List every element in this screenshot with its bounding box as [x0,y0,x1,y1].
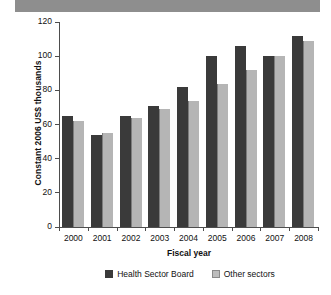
y-tick-label: 100 [38,50,52,60]
bar-health-sector-board [62,116,73,227]
bar-group [260,22,289,227]
x-tick-label: 2002 [117,233,145,243]
y-tick-label: 20 [43,187,52,197]
bar-group [232,22,261,227]
title-banner [15,0,320,12]
bar-health-sector-board [206,56,217,227]
bar-group [88,22,117,227]
y-axis-label: Constant 2006 US$ thousands [33,38,43,208]
x-tick-mark [260,227,261,231]
bar-health-sector-board [235,46,246,227]
x-tick-mark [117,227,118,231]
x-tick-mark [203,227,204,231]
x-tick-mark [318,227,319,231]
bar-group [289,22,318,227]
bar-health-sector-board [148,106,159,227]
x-tick-mark [174,227,175,231]
x-tick-label: 2001 [88,233,116,243]
y-tick-label: 0 [47,221,52,231]
y-tick-label: 120 [38,16,52,26]
bar-other-sectors [274,56,285,227]
bar-group [145,22,174,227]
x-tick-label: 2008 [290,233,318,243]
x-tick-label: 2000 [59,233,87,243]
legend-label: Health Sector Board [117,269,194,279]
x-tick-label: 2005 [203,233,231,243]
bar-health-sector-board [177,87,188,227]
x-tick-label: 2003 [146,233,174,243]
y-tick-label: 40 [43,153,52,163]
x-axis-label: Fiscal year [59,248,319,258]
x-tick-label: 2004 [175,233,203,243]
bar-other-sectors [217,84,228,228]
bar-other-sectors [159,109,170,227]
bar-other-sectors [246,70,257,227]
legend-label: Other sectors [224,269,275,279]
bar-health-sector-board [263,56,274,227]
plot-area: 020406080100120 [59,22,318,227]
bar-other-sectors [102,133,113,227]
chart-figure: Constant 2006 US$ thousands 020406080100… [0,0,331,295]
bar-health-sector-board [292,36,303,227]
x-tick-mark [289,227,290,231]
bar-other-sectors [73,121,84,227]
bar-group [203,22,232,227]
x-tick-mark [232,227,233,231]
legend-item-other-sectors: Other sectors [212,269,275,279]
chart-legend: Health Sector Board Other sectors [59,269,321,279]
bar-other-sectors [188,101,199,227]
x-tick-mark [145,227,146,231]
bar-group [117,22,146,227]
y-tick-label: 60 [43,119,52,129]
bar-health-sector-board [120,116,131,227]
bar-other-sectors [131,118,142,227]
x-tick-mark [88,227,89,231]
y-tick-label: 80 [43,84,52,94]
x-axis-line [59,227,319,228]
legend-swatch-light-icon [212,270,220,278]
bar-group [59,22,88,227]
legend-swatch-dark-icon [105,270,113,278]
x-tick-mark [59,227,60,231]
bar-group [174,22,203,227]
legend-item-health-sector-board: Health Sector Board [105,269,194,279]
bar-health-sector-board [91,135,102,227]
x-tick-label: 2007 [261,233,289,243]
x-tick-label: 2006 [232,233,260,243]
bar-other-sectors [303,41,314,227]
